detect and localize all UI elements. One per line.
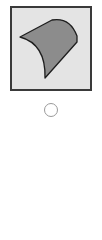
option-radio-button[interactable] — [44, 103, 58, 117]
